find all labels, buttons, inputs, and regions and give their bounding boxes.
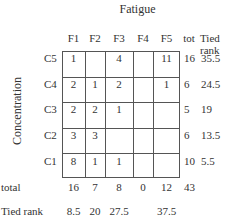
column-header-f2: F2	[85, 32, 105, 44]
grand-total: 43	[184, 181, 195, 193]
grid-line	[63, 153, 179, 154]
column-header-f1: F1	[62, 32, 85, 44]
column-rank: 20	[85, 205, 105, 217]
cell: 2	[85, 103, 105, 115]
cell: 3	[62, 129, 85, 141]
axis-title-concentration: Concentration	[10, 77, 25, 145]
cell: 11	[153, 52, 180, 64]
column-total: 12	[153, 181, 180, 193]
cell: 2	[62, 78, 85, 90]
row-total: 6	[184, 78, 190, 90]
cell: 1	[85, 78, 105, 90]
column-rank: 27.5	[105, 205, 133, 217]
cell: 1	[105, 103, 133, 115]
row-total: 6	[184, 129, 190, 141]
row-header-c5: C5	[44, 52, 57, 64]
column-header-f5: F5	[153, 32, 180, 44]
axis-title-fatigue: Fatigue	[0, 2, 235, 17]
column-total: 16	[62, 181, 85, 193]
column-header-tot: tot	[182, 32, 196, 44]
row-total: 10	[184, 155, 195, 167]
row-header-c1: C1	[44, 155, 57, 167]
cell: 1	[153, 78, 180, 90]
totals-row-label: total	[1, 181, 21, 193]
tied-rank-row-label: Tied rank	[1, 205, 43, 217]
row-rank: 35.5	[201, 52, 220, 64]
column-header-f3: F3	[105, 32, 133, 44]
column-header-f4: F4	[133, 32, 153, 44]
grid-line	[133, 52, 134, 177]
cell: 3	[85, 129, 105, 141]
row-rank: 24.5	[201, 78, 220, 90]
row-total: 5	[184, 103, 190, 115]
row-rank: 19	[201, 103, 212, 115]
row-header-c2: C2	[44, 129, 57, 141]
row-header-c4: C4	[44, 78, 57, 90]
tied-rank-label-line1: Tied	[200, 32, 220, 44]
cell: 1	[85, 155, 105, 167]
row-rank: 13.5	[201, 129, 220, 141]
row-total: 16	[184, 52, 195, 64]
cell: 1	[62, 52, 85, 64]
column-total: 0	[133, 181, 153, 193]
column-rank: 8.5	[62, 205, 85, 217]
grid-line	[153, 52, 154, 177]
row-header-c3: C3	[44, 103, 57, 115]
column-total: 7	[85, 181, 105, 193]
column-total: 8	[105, 181, 133, 193]
cell: 2	[62, 103, 85, 115]
column-rank: 37.5	[153, 205, 180, 217]
cell: 1	[105, 155, 133, 167]
cell: 4	[105, 52, 133, 64]
cell: 8	[62, 155, 85, 167]
row-rank: 5.5	[201, 155, 215, 167]
cell: 2	[105, 78, 133, 90]
